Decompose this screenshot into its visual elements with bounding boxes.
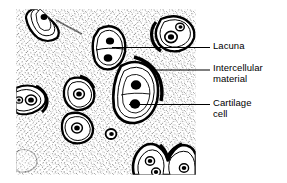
cartilage-cell xyxy=(104,54,113,62)
label-lacuna: Lacuna xyxy=(213,41,244,52)
label-cartilage-cell: Cartilage cell xyxy=(213,98,251,119)
cartilage-cell xyxy=(106,37,114,44)
label-intercellular-material: Intercellular material xyxy=(213,63,263,84)
lacuna-group xyxy=(16,150,37,173)
cartilage-histology-drawing xyxy=(0,0,287,183)
lacuna-group xyxy=(62,113,93,144)
lacuna-group xyxy=(15,86,47,115)
histology-figure: Lacuna Intercellular material Cartilage … xyxy=(0,0,287,183)
cartilage-cell xyxy=(109,132,114,136)
cartilage-cell xyxy=(131,80,141,89)
cartilage-cell xyxy=(41,14,48,20)
lacuna-group xyxy=(133,144,196,176)
lacuna-group xyxy=(106,129,117,139)
lacuna-group xyxy=(64,76,95,110)
